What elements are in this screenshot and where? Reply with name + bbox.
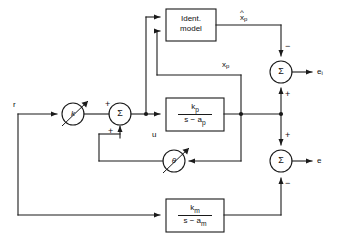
sign-track-sum-bottom: − — [285, 179, 290, 188]
sign-ident-sum-bottom: + — [285, 90, 290, 99]
plant-numerator: kp — [166, 103, 224, 114]
sign-track-sum-top: + — [285, 131, 290, 140]
input-sum-symbol: Σ — [113, 109, 127, 118]
signal-label-ei: ei — [317, 68, 323, 76]
reference-denominator: s − am — [166, 216, 224, 227]
ei-sub: i — [321, 70, 322, 76]
reference-numerator: km — [166, 204, 224, 215]
plant-transfer-function-label: kp s − ap — [166, 103, 224, 127]
plant-denominator: s − ap — [166, 115, 224, 126]
gain-theta-label: θ — [167, 157, 181, 165]
signal-label-xp: xp — [222, 61, 229, 69]
gain-k-label: k — [66, 110, 80, 118]
signal-label-e: e — [317, 157, 321, 165]
block-diagram: Ident. model kp s − ap km s − am k θ Σ Σ… — [0, 0, 337, 244]
xp-hat-sub: p — [244, 16, 247, 22]
identification-model-label: Ident. model — [166, 14, 216, 34]
signal-label-xp-hat: ^xp — [240, 14, 247, 22]
tracking-sum-symbol: Σ — [274, 156, 288, 165]
sign-ident-sum-top: − — [285, 42, 290, 51]
junction-dot-xp-tap — [239, 112, 243, 116]
sign-input-sum-bottom: + — [108, 127, 113, 136]
sign-input-sum-top: + — [105, 100, 110, 109]
reference-model-transfer-function-label: km s − am — [166, 204, 224, 228]
signal-label-r: r — [13, 101, 16, 109]
ident-model-line2: model — [180, 24, 202, 33]
xp-sub: p — [226, 63, 229, 69]
ident-model-line1: Ident. — [181, 14, 201, 23]
ident-sum-symbol: Σ — [274, 67, 288, 76]
signal-label-u: u — [152, 131, 156, 139]
xp-hat-accent: ^ — [240, 9, 244, 17]
